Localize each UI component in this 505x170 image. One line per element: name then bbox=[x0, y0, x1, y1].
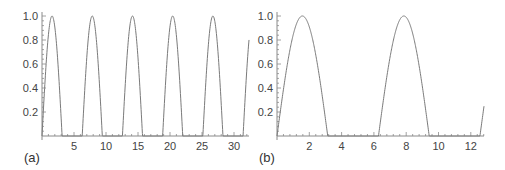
x-tick-label: 8 bbox=[403, 140, 409, 152]
data-curve bbox=[42, 16, 249, 136]
x-tick-label: 5 bbox=[71, 140, 77, 152]
y-tick-label: 0.4 bbox=[23, 82, 38, 94]
y-tick-label: 0.2 bbox=[23, 106, 38, 118]
x-tick-label: 10 bbox=[100, 140, 112, 152]
y-tick-label: 0.2 bbox=[258, 106, 273, 118]
x-tick-label: 2 bbox=[306, 140, 312, 152]
panel-label: (a) bbox=[24, 150, 40, 165]
y-tick-label: 0.8 bbox=[23, 34, 38, 46]
x-tick-label: 10 bbox=[432, 140, 444, 152]
panel-label: (b) bbox=[259, 150, 275, 165]
x-tick-label: 30 bbox=[228, 140, 240, 152]
x-tick-label: 15 bbox=[132, 140, 144, 152]
x-tick-label: 12 bbox=[465, 140, 477, 152]
panel-b-plot: 246810120.20.40.60.81.0(b) bbox=[258, 10, 484, 165]
x-tick-label: 4 bbox=[339, 140, 345, 152]
panel-a-plot: 510152025300.20.40.60.81.0(a) bbox=[23, 10, 249, 165]
y-tick-label: 0.8 bbox=[258, 34, 273, 46]
x-tick-label: 20 bbox=[164, 140, 176, 152]
y-tick-label: 1.0 bbox=[258, 10, 273, 22]
y-tick-label: 0.6 bbox=[258, 58, 273, 70]
figure: 510152025300.20.40.60.81.0(a) 246810120.… bbox=[0, 0, 505, 170]
x-tick-label: 25 bbox=[196, 140, 208, 152]
y-tick-label: 1.0 bbox=[23, 10, 38, 22]
y-tick-label: 0.4 bbox=[258, 82, 273, 94]
data-curve bbox=[277, 16, 484, 136]
x-tick-label: 6 bbox=[371, 140, 377, 152]
y-tick-label: 0.6 bbox=[23, 58, 38, 70]
